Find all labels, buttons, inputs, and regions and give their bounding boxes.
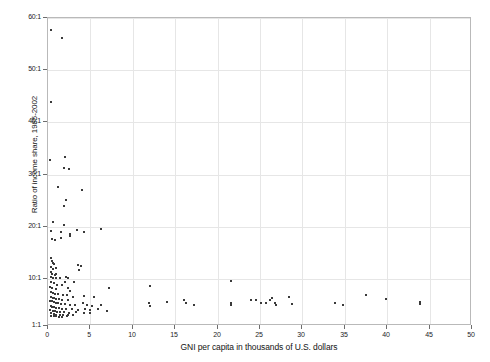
data-point [260, 302, 262, 304]
data-point [97, 308, 99, 310]
x-axis-tick-label: 45 [417, 331, 441, 339]
y-axis-tick [43, 278, 47, 279]
data-point [55, 273, 57, 275]
data-point [54, 293, 56, 295]
data-point [185, 302, 187, 304]
data-point [69, 235, 71, 237]
gridline-horizontal [48, 18, 470, 19]
x-axis-tick [174, 325, 175, 329]
data-point [62, 294, 64, 296]
data-point [78, 269, 80, 271]
data-point [86, 304, 88, 306]
data-point [55, 315, 57, 317]
data-point [149, 305, 151, 307]
data-point [342, 304, 344, 306]
data-point [365, 294, 367, 296]
data-point [67, 299, 69, 301]
x-axis-title: GNI per capita in thousands of U.S. doll… [47, 342, 471, 352]
x-axis-tick [259, 325, 260, 329]
data-point [67, 277, 69, 279]
data-point [64, 156, 66, 158]
data-point [193, 304, 195, 306]
data-point [61, 299, 63, 301]
data-point [51, 273, 53, 275]
x-axis-tick [344, 325, 345, 329]
data-point [77, 309, 79, 311]
data-point [230, 304, 232, 306]
data-point [56, 284, 58, 286]
data-point [53, 263, 55, 265]
x-axis-tick [471, 325, 472, 329]
data-point [82, 302, 84, 304]
data-point [50, 29, 52, 31]
data-point [52, 277, 54, 279]
data-point [84, 308, 86, 310]
data-point [61, 37, 63, 39]
data-point [106, 310, 108, 312]
x-axis-tick-label: 0 [35, 331, 59, 339]
data-point [76, 229, 78, 231]
data-point [271, 297, 273, 299]
data-point [65, 308, 67, 310]
x-axis-tick [217, 325, 218, 329]
data-point [166, 301, 168, 303]
data-point [334, 302, 336, 304]
data-point [385, 298, 387, 300]
data-point [58, 316, 60, 318]
x-axis-tick-label: 20 [205, 331, 229, 339]
gridline-horizontal [48, 175, 470, 176]
data-point [60, 231, 62, 233]
data-point [75, 311, 77, 313]
data-point [100, 228, 102, 230]
x-axis-tick-label: 15 [162, 331, 186, 339]
scatter-chart-figure: 1:110:120:130:140:150:160:1 051015202530… [0, 0, 490, 362]
x-axis-tick-label: 35 [332, 331, 356, 339]
y-axis-tick [43, 69, 47, 70]
y-axis-tick [43, 121, 47, 122]
x-axis-tick-label: 5 [77, 331, 101, 339]
data-point [149, 285, 151, 287]
y-axis-tick [43, 174, 47, 175]
data-point [275, 304, 277, 306]
gridline-horizontal [48, 122, 470, 123]
x-axis-tick-label: 40 [374, 331, 398, 339]
data-point [93, 296, 95, 298]
data-point [63, 224, 65, 226]
data-point [83, 231, 85, 233]
data-point [72, 296, 74, 298]
data-point [55, 298, 57, 300]
x-axis-tick [386, 325, 387, 329]
gridline-horizontal [48, 279, 470, 280]
data-point [230, 280, 232, 282]
data-point [77, 264, 79, 266]
data-point [63, 205, 65, 207]
data-point [66, 294, 68, 296]
y-axis-tick [43, 226, 47, 227]
data-point [57, 302, 59, 304]
data-point [61, 284, 63, 286]
data-point [55, 267, 57, 269]
data-point [83, 295, 85, 297]
y-axis-title: Ratio of income share, 1985-2002 [30, 45, 39, 265]
plot-area [47, 17, 471, 325]
data-point [55, 277, 57, 279]
data-point [57, 186, 59, 188]
data-point [108, 287, 110, 289]
data-point [63, 167, 65, 169]
data-point [50, 101, 52, 103]
x-axis-tick [301, 325, 302, 329]
data-point [250, 299, 252, 301]
data-point [291, 303, 293, 305]
data-point [73, 281, 75, 283]
x-axis-tick-label: 10 [120, 331, 144, 339]
data-point [60, 303, 62, 305]
data-point [65, 199, 67, 201]
data-point [54, 239, 56, 241]
data-point [100, 304, 102, 306]
data-point [81, 189, 83, 191]
data-point [58, 307, 60, 309]
data-point [66, 315, 68, 317]
data-point [67, 287, 69, 289]
x-axis-tick [47, 325, 48, 329]
data-point [52, 221, 54, 223]
